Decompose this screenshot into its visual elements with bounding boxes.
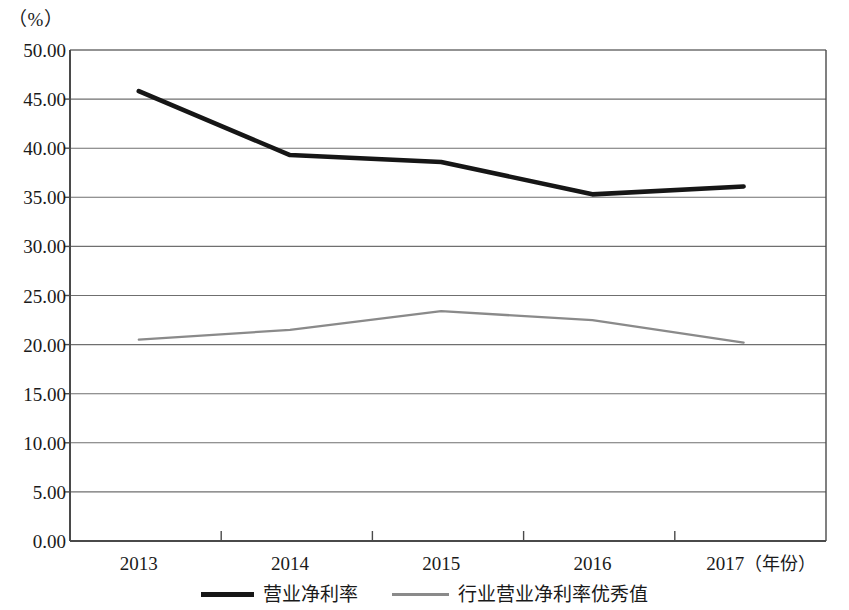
legend-item[interactable]: 行业营业净利率优秀值 [392,585,648,604]
x-axis-tick-label: 2015 [422,554,460,573]
legend-item[interactable]: 营业净利率 [201,585,358,604]
chart-legend: 营业净利率行业营业净利率优秀值 [0,580,849,608]
x-axis-tick-value: 2017 [706,553,744,574]
x-axis-tick-label: 2014 [271,554,309,573]
x-axis-tick-label: 2017（年份） [706,554,816,574]
legend-item-label: 行业营业净利率优秀值 [458,585,648,604]
x-axis-tick-value: 2016 [573,553,611,574]
thick-dark-line-swatch [201,592,254,597]
thin-gray-line-swatch [392,593,449,596]
x-axis-tick-value: 2013 [120,553,158,574]
x-axis-tick-label: 2016 [573,554,611,573]
x-axis-tick-label: 2013 [120,554,158,573]
x-axis-tick-value: 2014 [271,553,309,574]
x-axis-tick-value: 2015 [422,553,460,574]
x-axis-unit-label: （年份） [744,554,816,574]
x-axis-tick-labels: 20132014201520162017（年份） [0,0,849,610]
net-profit-margin-line-chart: （%） 0.005.0010.0015.0020.0025.0030.0035.… [0,0,849,610]
legend-item-label: 营业净利率 [263,585,358,604]
